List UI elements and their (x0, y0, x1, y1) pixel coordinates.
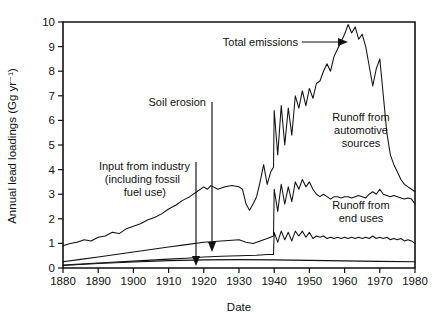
y-tick-label: 1 (49, 237, 55, 249)
y-tick-label: 8 (49, 65, 55, 77)
annotation-soil-erosion: Soil erosion (149, 96, 206, 108)
annotation-automotive-line2: automotive (334, 124, 388, 136)
annotation-automotive-line3: sources (342, 137, 381, 149)
x-tick-label: 1980 (402, 275, 428, 287)
y-tick-label: 0 (49, 262, 55, 274)
x-axis-tick-labels: 1880189019001910192019301940195019601970… (50, 275, 428, 287)
annotation-enduses-line1: Runoff from (332, 199, 389, 211)
annotation-enduses-line2: end uses (339, 212, 384, 224)
x-tick-label: 1890 (85, 275, 111, 287)
x-axis-title: Date (227, 301, 251, 313)
x-tick-label: 1930 (226, 275, 252, 287)
y-tick-label: 3 (49, 188, 55, 200)
x-tick-label: 1910 (156, 275, 182, 287)
x-tick-label: 1940 (261, 275, 287, 287)
annotation-industry-line1: Input from industry (99, 160, 191, 172)
y-axis-title: Annual lead loadings (Gg yr⁻¹) (6, 68, 18, 224)
annotation-automotive-line1: Runoff from (332, 111, 389, 123)
chart-background (0, 0, 440, 322)
x-tick-label: 1920 (191, 275, 217, 287)
x-tick-label: 1970 (367, 275, 393, 287)
x-tick-label: 1950 (297, 275, 323, 287)
y-tick-label: 6 (49, 114, 55, 126)
chart-figure: 012345678910 188018901900191019201930194… (0, 0, 440, 322)
annotation-total-emissions: Total emissions (223, 36, 299, 48)
annotation-industry-line3: fuel use) (124, 186, 166, 198)
y-tick-label: 2 (49, 213, 55, 225)
y-tick-label: 5 (49, 139, 55, 151)
y-tick-label: 9 (49, 41, 55, 53)
annotation-industry-line2: (including fossil (105, 173, 180, 185)
y-tick-label: 7 (49, 90, 55, 102)
lead-loadings-line-chart: 012345678910 188018901900191019201930194… (0, 0, 440, 322)
y-tick-label: 4 (49, 164, 56, 176)
x-tick-label: 1900 (121, 275, 147, 287)
x-tick-label: 1880 (50, 275, 76, 287)
x-tick-label: 1960 (332, 275, 358, 287)
y-tick-label: 10 (42, 16, 55, 28)
